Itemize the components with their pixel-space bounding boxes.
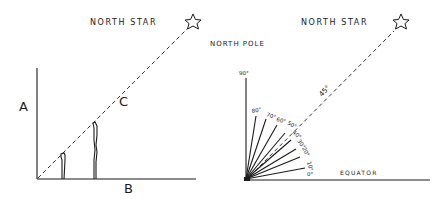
label-a: A: [19, 99, 28, 114]
fan-line-20: [246, 157, 300, 179]
right-sight-line: [250, 31, 394, 176]
fan-label-70: 70°: [266, 111, 277, 120]
fan-origin: [244, 177, 250, 181]
fan-label-60: 60°: [276, 116, 287, 124]
north-pole-label: NORTH POLE: [210, 40, 265, 48]
fan-label-20: 20°: [301, 146, 311, 158]
left-star-icon: [185, 14, 201, 29]
fan-label-80: 80°: [251, 106, 262, 114]
left-north-star-label: NORTH STAR: [90, 18, 157, 27]
left-diagram: NORTH STAR A B C: [19, 14, 201, 196]
fan-label-50: 50°: [287, 120, 299, 130]
equator-label: EQUATOR: [340, 169, 378, 176]
fan-label-0: 0°: [307, 171, 313, 177]
left-sight-line: [38, 29, 187, 178]
label-b: B: [124, 181, 133, 196]
label-c: C: [119, 94, 128, 109]
diagram-canvas: NORTH STAR A B C NORTH STAR NORTH POLE 9…: [0, 0, 444, 199]
angle-90-label: 90°: [239, 70, 249, 76]
right-star-icon: [393, 14, 409, 29]
short-post: [61, 153, 65, 179]
north-star-diagram: NORTH STAR A B C NORTH STAR NORTH POLE 9…: [0, 0, 444, 199]
right-north-star-label: NORTH STAR: [301, 18, 368, 27]
tall-post: [93, 122, 97, 179]
right-diagram: NORTH STAR NORTH POLE 90° EQUATOR 45°: [210, 14, 430, 181]
